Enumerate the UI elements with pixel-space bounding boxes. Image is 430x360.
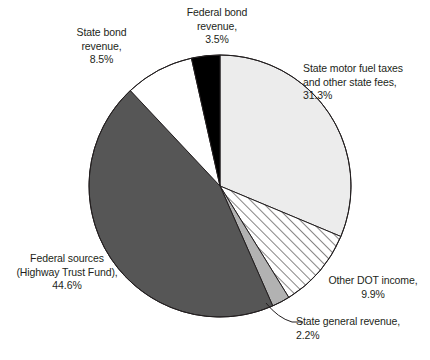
pie-label-federal-bond-revenue: Federal bond revenue, 3.5% (162, 6, 272, 47)
pie-label-other-dot-income: Other DOT income, 9.9% (318, 274, 428, 301)
pie-label-state-motor-fuel-taxes: State motor fuel taxes and other state f… (303, 62, 429, 103)
pie-label-state-general-revenue: State general revenue, 2.2% (296, 315, 428, 342)
pie-chart-figure: State motor fuel taxes and other state f… (0, 0, 430, 360)
pie-label-federal-sources-highway-trust-fund: Federal sources (Highway Trust Fund), 44… (2, 252, 132, 293)
pie-label-state-bond-revenue: State bond revenue, 8.5% (54, 26, 149, 67)
